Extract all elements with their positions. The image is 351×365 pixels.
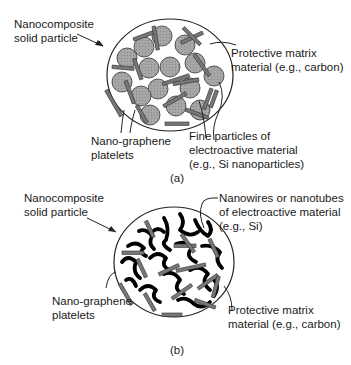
label-line: solid particle — [24, 205, 104, 219]
label-graphene-platelets-b: Nano-graphene platelets — [52, 294, 132, 322]
label-line: of electroactive material — [219, 205, 344, 219]
label-fine-particles-a: Fine particles of electroactive material… — [189, 129, 304, 171]
label-line: electroactive material — [189, 143, 304, 157]
label-line: material (e.g., carbon) — [228, 317, 341, 331]
label-line: solid particle — [14, 31, 94, 45]
label-line: Nanocomposite — [24, 191, 104, 205]
label-protective-matrix-a: Protective matrix material (e.g., carbon… — [231, 46, 344, 74]
label-nanowires-b: Nanowires or nanotubes of electroactive … — [219, 191, 344, 233]
label-line: Protective matrix — [228, 303, 341, 317]
label-line: Nanocomposite — [14, 17, 94, 31]
label-line: (e.g., Si nanoparticles) — [189, 157, 304, 171]
label-protective-matrix-b: Protective matrix material (e.g., carbon… — [228, 303, 341, 331]
label-graphene-platelets-a: Nano-graphene platelets — [91, 134, 171, 162]
caption-a: (a) — [170, 171, 184, 185]
label-line: platelets — [52, 308, 132, 322]
label-line: Fine particles of — [189, 129, 304, 143]
label-nanocomposite-particle-b: Nanocomposite solid particle — [24, 191, 104, 219]
label-line: (e.g., Si) — [219, 219, 344, 233]
label-line: Nano-graphene — [52, 294, 132, 308]
figure-b-particle — [114, 207, 234, 317]
label-line: platelets — [91, 148, 171, 162]
label-line: material (e.g., carbon) — [231, 60, 344, 74]
label-line: Protective matrix — [231, 46, 344, 60]
figure-a-particle — [105, 19, 233, 131]
label-line: Nano-graphene — [91, 134, 171, 148]
label-line: Nanowires or nanotubes — [219, 191, 344, 205]
label-nanocomposite-particle-a: Nanocomposite solid particle — [14, 17, 94, 45]
caption-b: (b) — [170, 343, 184, 357]
